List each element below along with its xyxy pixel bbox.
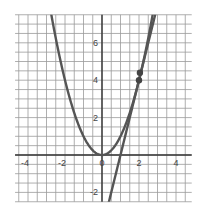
x-tick-label: -4	[21, 158, 29, 168]
x-tick-label: 4	[173, 158, 178, 168]
point-marker	[137, 70, 143, 76]
x-tick-label: -2	[58, 158, 66, 168]
y-tick-label: 2	[93, 113, 98, 123]
parabola-curve	[15, 0, 192, 155]
y-tick-label: 6	[93, 38, 98, 48]
y-tick-label: -2	[90, 187, 98, 197]
tangent-line	[15, 0, 192, 213]
x-tick-label: 0	[99, 158, 104, 168]
curves	[15, 0, 192, 213]
point-marker	[136, 77, 142, 83]
graph-plot: -4-2024-2246	[0, 0, 204, 213]
grid-lines	[15, 15, 192, 202]
y-tick-label: 4	[93, 75, 98, 85]
x-tick-label: 2	[136, 158, 141, 168]
